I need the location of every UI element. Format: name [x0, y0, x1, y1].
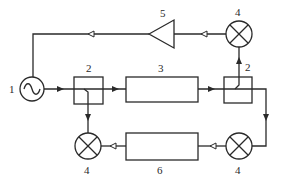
filled-arrow-right-icon [112, 86, 119, 92]
label-amplifier: 5 [160, 7, 166, 19]
open-arrow-left-icon [110, 143, 116, 149]
mixer-icon [226, 133, 252, 159]
mixer-icon [75, 133, 101, 159]
label-oscillator: 1 [9, 83, 15, 95]
filled-arrow-up-icon [236, 57, 242, 64]
label-block-3: 3 [158, 62, 164, 74]
block-diagram: 1 5 4 2 2 3 4 6 [0, 0, 281, 183]
open-arrow-left-icon [201, 31, 207, 37]
filled-arrow-right-icon [208, 86, 215, 92]
wire-block3-to-mixer-bottom-right [198, 89, 266, 146]
coupler-right-box [224, 77, 252, 103]
label-coupler-right: 2 [245, 61, 251, 73]
label-block-6: 6 [157, 164, 163, 176]
open-arrow-left-icon [88, 31, 94, 37]
filled-arrow-down-icon [85, 114, 91, 121]
label-mixer-bottom-right: 4 [235, 164, 241, 176]
label-mixer-top: 4 [235, 6, 241, 18]
oscillator-icon [20, 77, 44, 101]
block-3 [126, 77, 198, 102]
mixer-icon [226, 21, 252, 47]
label-mixer-bottom-left: 4 [84, 164, 90, 176]
amplifier-icon [149, 20, 174, 48]
label-coupler-left: 2 [86, 62, 92, 74]
filled-arrow-right-icon [57, 86, 64, 92]
wire-coupler-to-mixer-top [235, 47, 239, 89]
block-6 [126, 133, 198, 160]
wire-coupler-to-mixer-left [84, 89, 88, 133]
open-arrow-left-icon [210, 143, 216, 149]
filled-arrow-down-icon [263, 114, 269, 121]
